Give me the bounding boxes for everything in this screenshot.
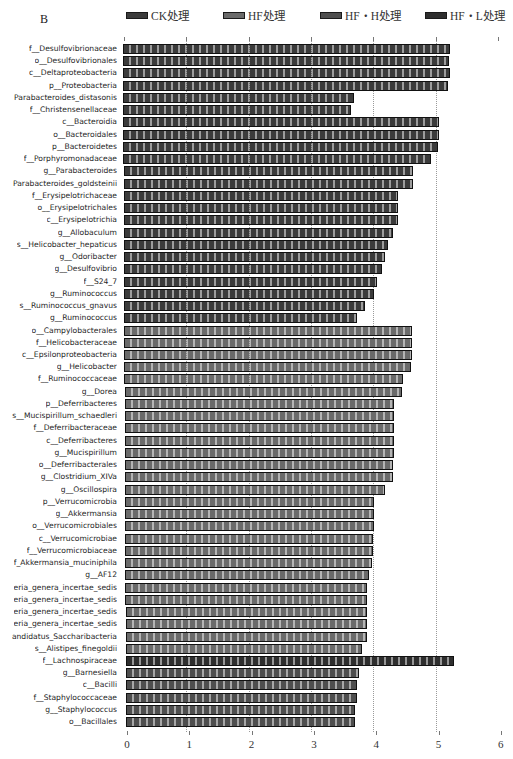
bar [125, 497, 374, 507]
category-label: o__Bacteroidales [53, 129, 117, 141]
axis-tick-top [124, 37, 125, 41]
bar-row: f__Porphyromonadaceae [0, 153, 513, 165]
category-label: c__Deferribacteres [46, 435, 117, 447]
bar [124, 252, 385, 262]
category-label: c__Epsilonproteobacteria [22, 349, 117, 361]
category-label: s__Alistipes_finegoldii [35, 643, 117, 655]
category-label: f__Lachnospiraceae [43, 655, 117, 667]
axis-tick [189, 731, 190, 735]
category-label: s__Helicobacter_hepaticus [17, 239, 117, 251]
bar [124, 264, 382, 274]
category-label: g__Mucispirillum [54, 447, 117, 459]
bar-row: f__Ruminococcaceae [0, 373, 513, 385]
bar-row: g__Akkermansia [0, 508, 513, 520]
bar-row: g__AF12 [0, 569, 513, 581]
bar-row: s__Ruminococcus_gnavus [0, 300, 513, 312]
bar [125, 387, 402, 397]
bar [125, 534, 373, 544]
bar-row: p__Deferribacteres [0, 398, 513, 410]
bar [124, 215, 398, 225]
category-label: g__Staphylococcus [45, 704, 117, 716]
category-label: g__Barnesiella [63, 667, 117, 679]
bar [124, 338, 412, 348]
bar [125, 546, 373, 556]
category-label: f__Porphyromonadaceae [24, 153, 117, 165]
category-label: c__Bacilli [83, 679, 117, 691]
axis-tick [314, 731, 315, 735]
axis-tick-label: 3 [304, 738, 324, 750]
bar-row: o__Bacteroidales [0, 129, 513, 141]
bar-row: c__Bacteroidia [0, 116, 513, 128]
category-label: f__Verrucomicrobiaceae [27, 545, 117, 557]
category-label: p__Proteobacteria [49, 80, 117, 92]
category-label: g__Akkermansia [56, 508, 117, 520]
bar-row: f__Erysipelotrichaceae [0, 190, 513, 202]
bar [126, 717, 355, 727]
bar [123, 44, 450, 54]
axis-tick-top [498, 37, 499, 41]
bar [123, 154, 431, 164]
bar [125, 448, 394, 458]
bar-row: c__Deferribacteres [0, 435, 513, 447]
bar [126, 680, 357, 690]
bar [123, 117, 439, 127]
bar-row: g__Ruminococcus [0, 288, 513, 300]
bar-row: g__Barnesiella [0, 667, 513, 679]
category-label: g__Parabacteroides [43, 165, 117, 177]
bar-row: c__Bacilli [0, 679, 513, 691]
bar [124, 362, 411, 372]
bar [124, 203, 399, 213]
bar [125, 423, 394, 433]
bar [125, 436, 394, 446]
category-label: f_Akkermansia_muciniphila [14, 557, 117, 569]
bar-row: g__Ruminococcus [0, 312, 513, 324]
category-label: Parabacteroides_distasonis [14, 92, 117, 104]
category-label: g__Helicobacter [57, 361, 117, 373]
bar-row: Parabacteroides_distasonis [0, 92, 513, 104]
bar [123, 130, 439, 140]
category-label: o__Erysipelotrichales [37, 202, 117, 214]
bar [123, 93, 354, 103]
bar-row: c__Deltaproteobacteria [0, 67, 513, 79]
bar-row: p__Verrucomicrobia [0, 496, 513, 508]
bar [126, 668, 359, 678]
bar-row: g__Staphylococcus [0, 704, 513, 716]
category-label: g__Dorea [82, 386, 117, 398]
bar-row: g__Desulfovibrio [0, 263, 513, 275]
axis-tick-label: 5 [429, 738, 449, 750]
axis-tick-top [373, 37, 374, 41]
category-label: g__Ruminococcus [50, 288, 117, 300]
axis-tick [439, 731, 440, 735]
axis-tick-label: 4 [366, 738, 386, 750]
bar [124, 191, 399, 201]
bar [123, 142, 438, 152]
bar-row: c__Verrucomicrobiae [0, 533, 513, 545]
category-label: g__Ruminococcus [50, 312, 117, 324]
bar [125, 570, 369, 580]
bar [124, 350, 411, 360]
bar-row: Parabacteroides_goldsteinii [0, 178, 513, 190]
bar [125, 485, 385, 495]
category-label: o__Desulfovibrionales [35, 55, 117, 67]
bar-row: o__Desulfovibrionales [0, 55, 513, 67]
category-label: f__Desulfovibrionaceae [29, 43, 117, 55]
category-label: Parabacteroides_goldsteinii [13, 178, 117, 190]
bar-row: g__Helicobacter [0, 361, 513, 373]
bar [124, 374, 402, 384]
axis-tick [127, 731, 128, 735]
bar-row: o__Deferribacterales [0, 459, 513, 471]
category-label: g__Allobaculum [58, 227, 117, 239]
bar [126, 656, 454, 666]
axis-tick [376, 731, 377, 735]
bar [125, 583, 367, 593]
bar-chart: 0123456f__Desulfovibrionaceaeo__Desulfov… [0, 0, 513, 759]
bar [125, 595, 367, 605]
bar [123, 105, 350, 115]
bar [125, 460, 394, 470]
bar [124, 301, 364, 311]
category-label: c__Verrucomicrobiae [39, 533, 117, 545]
category-label: eria_genera_incertae_sedis [14, 582, 117, 594]
category-label: o__Bacillales [69, 716, 117, 728]
bar-row: eria_genera_incertae_sedis [0, 618, 513, 630]
category-label: o__Campylobacterales [32, 325, 117, 337]
